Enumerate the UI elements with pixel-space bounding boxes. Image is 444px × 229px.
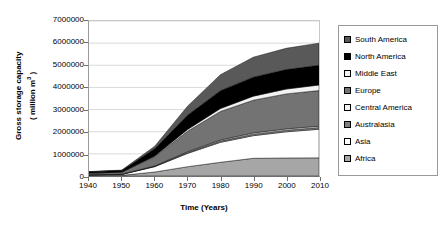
y-axis-tick-label: 6000000 (24, 38, 84, 46)
y-axis-tick-label: 5000000 (24, 61, 84, 69)
x-axis-tick-label: 1960 (139, 181, 169, 190)
x-axis-tick-label: 1980 (206, 181, 236, 190)
legend-item[interactable]: North America (344, 48, 437, 65)
y-axis-tick-label: 0 (24, 173, 84, 181)
legend-item-label: Central America (355, 103, 412, 112)
legend-item[interactable]: Europe (344, 82, 437, 99)
y-axis-tick-label: 3000000 (24, 106, 84, 114)
y-axis-tick-label: 7000000 (24, 16, 84, 24)
stacked-area-svg (89, 21, 319, 176)
legend-item-label: North America (355, 52, 406, 61)
legend-item-label: Europe (355, 86, 381, 95)
chart-figure: Gross storage capacity ( million m3 ) 01… (0, 0, 444, 229)
legend-item[interactable]: Asia (344, 133, 437, 150)
legend-swatch-icon (344, 104, 351, 111)
y-axis-tick-label: 4000000 (24, 83, 84, 91)
x-axis-tick-label: 1940 (73, 181, 103, 190)
y-axis-tick-label: 1000000 (24, 151, 84, 159)
legend-swatch-icon (344, 121, 351, 128)
x-axis-title: Time (Years) (88, 203, 320, 212)
plot-area (88, 20, 320, 177)
x-axis-tick-label: 1990 (239, 181, 269, 190)
legend-swatch-icon (344, 87, 351, 94)
x-axis-tick-label: 1950 (106, 181, 136, 190)
x-axis-tick-label: 2000 (272, 181, 302, 190)
legend-swatch-icon (344, 138, 351, 145)
legend-item[interactable]: Central America (344, 99, 437, 116)
legend-item[interactable]: South America (344, 31, 437, 48)
legend-item-label: Australasia (355, 120, 395, 129)
x-axis-tick-label: 2010 (305, 181, 335, 190)
legend-item-label: Africa (355, 154, 375, 163)
legend-swatch-icon (344, 36, 351, 43)
legend-item-label: Asia (355, 137, 371, 146)
legend-item[interactable]: Australasia (344, 116, 437, 133)
y-axis-tick-label: 2000000 (24, 128, 84, 136)
x-axis-tick-labels: 19401950196019701980199020002010 (0, 181, 444, 195)
legend-item[interactable]: Africa (344, 150, 437, 167)
chart-legend: South AmericaNorth AmericaMiddle EastEur… (338, 25, 438, 176)
x-axis-tick-label: 1970 (172, 181, 202, 190)
legend-swatch-icon (344, 53, 351, 60)
legend-swatch-icon (344, 155, 351, 162)
legend-item-label: South America (355, 35, 407, 44)
legend-item-label: Middle East (355, 69, 397, 78)
legend-item[interactable]: Middle East (344, 65, 437, 82)
legend-swatch-icon (344, 70, 351, 77)
